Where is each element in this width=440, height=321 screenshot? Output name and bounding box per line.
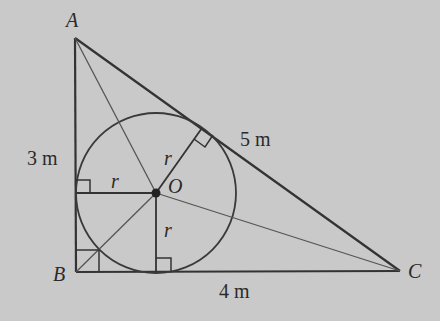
vertex-label-a: A — [66, 10, 78, 30]
vertex-label-b: B — [53, 264, 65, 284]
radius-label-ac: r — [164, 148, 172, 168]
side-label-ab: 3 m — [27, 148, 58, 168]
right-angle-marker-ab — [76, 180, 90, 193]
bisector-b — [76, 193, 156, 272]
bisector-c — [156, 193, 400, 271]
radius-label-ab: r — [111, 171, 119, 191]
triangle-figure — [0, 0, 440, 321]
side-bc — [76, 271, 400, 272]
side-ac — [75, 38, 400, 271]
right-angle-marker-bc — [156, 258, 171, 272]
diagram-canvas: A B C O 3 m 5 m 4 m r r r — [0, 0, 440, 321]
side-label-bc: 4 m — [219, 281, 250, 301]
side-label-ac: 5 m — [240, 129, 271, 149]
side-ab — [75, 38, 76, 272]
incenter-label-o: O — [168, 176, 182, 196]
incenter-dot — [152, 189, 161, 198]
radius-label-bc: r — [164, 220, 172, 240]
vertex-label-c: C — [408, 261, 421, 281]
